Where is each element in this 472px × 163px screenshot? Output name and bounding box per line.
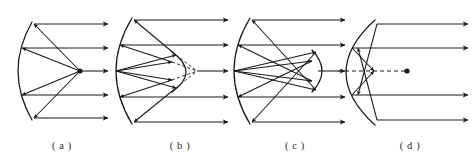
secondary-mirror-b (172, 52, 186, 92)
panel-layer (18, 18, 468, 125)
reflected-ray-b-7 (134, 88, 176, 122)
primary-mirror-a (18, 22, 32, 120)
reflected-ray-c-6 (238, 45, 312, 81)
caption-panel-c: ( c ) (285, 140, 305, 151)
reflected-ray-b-5 (120, 45, 172, 62)
reflected-ray-c-3 (234, 71, 316, 90)
reflected-ray-c-4 (252, 52, 316, 122)
reflected-ray-b-6 (120, 80, 172, 97)
focal-point-a (77, 68, 82, 73)
reflected-ray-c-5 (238, 61, 312, 97)
panel-d (338, 20, 468, 125)
optics-figure: ( a )( b )( c )( d ) (0, 0, 472, 163)
caption-panel-d: ( d ) (400, 140, 421, 151)
focal-point-d (404, 68, 409, 73)
reflected-ray-a-1 (22, 48, 80, 71)
virtual-ray-b-1 (172, 62, 197, 71)
reflected-ray-c-0 (234, 52, 316, 71)
panel-b (116, 18, 228, 124)
caption-panel-a: ( a ) (52, 140, 72, 151)
reflected-ray-c-7 (252, 20, 316, 90)
primary-mirror-d (346, 20, 375, 125)
ray-diagram-canvas (0, 0, 472, 163)
panel-c (234, 18, 345, 124)
caption-panel-b: ( b ) (170, 140, 191, 151)
reflected-ray-a-2 (22, 71, 80, 95)
reflected-ray-b-4 (134, 20, 176, 55)
panel-a (18, 22, 108, 120)
